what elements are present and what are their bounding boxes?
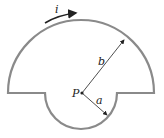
- radius-a-arrow: [82, 93, 107, 115]
- current-loop: [8, 20, 154, 129]
- radius-a-label: a: [96, 94, 103, 107]
- current-label: i: [55, 3, 59, 16]
- diagram-canvas: i b a P: [0, 0, 164, 138]
- point-p-label: P: [71, 87, 80, 100]
- point-p-dot: [80, 91, 83, 94]
- radius-b-label: b: [98, 55, 105, 68]
